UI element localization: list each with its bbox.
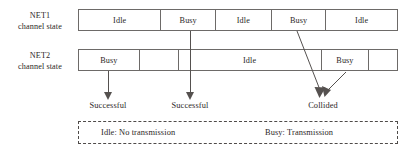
- channel-state-diagram: NET1 channel state Idle Busy Idle Busy I…: [0, 0, 418, 151]
- legend-item-idle: Idle: No transmission: [101, 128, 175, 137]
- arrow-head-successful-1: [104, 92, 112, 100]
- net2-row-label: NET2 channel state: [8, 51, 72, 72]
- net2-label-line2: channel state: [8, 62, 72, 73]
- net1-segment-2-busy: Busy: [161, 10, 216, 30]
- arrow-line-net1-busy-to-successful: [190, 31, 191, 93]
- net1-segment-1-idle: Idle: [79, 10, 161, 30]
- net1-segment-4-busy: Busy: [272, 10, 327, 30]
- net2-channel-state-bar: Busy Idle Busy: [78, 49, 398, 71]
- outcome-label-successful-2: Successful: [150, 101, 230, 110]
- outcome-label-successful-1: Successful: [68, 101, 148, 110]
- legend-box: Idle: No transmission Busy: Transmission: [78, 121, 398, 144]
- net2-segment-2-blank: [140, 50, 179, 70]
- net1-segment-3-idle: Idle: [216, 10, 272, 30]
- net2-segment-5-blank: [369, 50, 397, 70]
- outcome-label-collided: Collided: [285, 101, 361, 110]
- net2-segment-1-busy: Busy: [79, 50, 140, 70]
- arrow-head-collided-2: [322, 86, 331, 97]
- arrow-line-net2-busy-to-successful: [108, 71, 109, 93]
- net2-label-line1: NET2: [8, 51, 72, 62]
- arrow-head-successful-2: [186, 92, 194, 100]
- net1-channel-state-bar: Idle Busy Idle Busy Idle: [78, 9, 398, 31]
- arrow-head-collided-1: [315, 87, 326, 98]
- net2-segment-4-busy: Busy: [322, 50, 370, 70]
- net2-segment-3-idle: Idle: [179, 50, 322, 70]
- net1-row-label: NET1 channel state: [8, 11, 72, 32]
- net1-segment-5-idle: Idle: [326, 10, 397, 30]
- legend-item-busy: Busy: Transmission: [265, 128, 333, 137]
- net1-label-line1: NET1: [8, 11, 72, 22]
- net1-label-line2: channel state: [8, 22, 72, 33]
- arrow-line-net2-busy-to-collided: [328, 72, 346, 90]
